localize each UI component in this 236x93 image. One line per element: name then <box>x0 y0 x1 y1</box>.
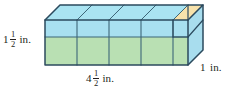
depth-whole-number: 1 <box>200 62 207 73</box>
height-fraction: 1 2 <box>10 30 16 50</box>
length-fraction: 1 2 <box>93 69 99 89</box>
height-denominator: 2 <box>10 40 16 49</box>
prism-figure: 1 1 2 in. 4 1 2 in. 1 in. <box>0 0 236 93</box>
height-unit: in. <box>16 34 31 45</box>
length-unit: in. <box>99 73 114 84</box>
length-denominator: 2 <box>93 79 99 88</box>
front-face-lower-band <box>45 37 188 65</box>
length-label: 4 1 2 in. <box>86 69 114 89</box>
length-whole-number: 4 <box>86 73 93 84</box>
depth-label: 1 in. <box>200 62 222 73</box>
height-whole-number: 1 <box>3 34 10 45</box>
prism-drawing <box>0 0 236 93</box>
depth-unit: in. <box>207 62 222 73</box>
height-label: 1 1 2 in. <box>3 30 31 50</box>
front-face-upper-band <box>45 20 188 37</box>
length-numerator: 1 <box>93 69 99 78</box>
height-numerator: 1 <box>10 30 16 39</box>
